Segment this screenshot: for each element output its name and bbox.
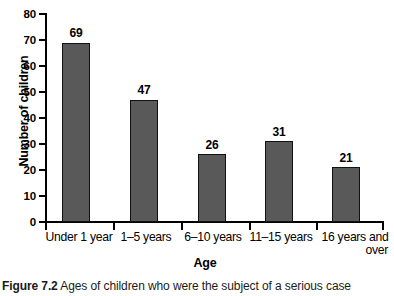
x-category-label-6-10-years: 6–10 years (178, 231, 248, 244)
figure-caption: Figure 7.2 Ages of children who were the… (2, 279, 394, 293)
x-tick-mark-0 (45, 223, 47, 230)
figure-caption-label: Figure 7.2 (2, 279, 58, 293)
y-axis-line (45, 13, 47, 223)
x-category-label-line-1: 16 years and (316, 231, 394, 244)
y-tick-label-10: 10 (8, 191, 36, 203)
figure-bar-chart: 80 70 60 50 40 30 20 10 0 69 47 26 31 21… (0, 0, 394, 296)
x-tick-mark-4 (316, 223, 318, 230)
y-axis-title: Number of children (17, 31, 31, 191)
x-tick-mark-3 (249, 223, 251, 230)
bar-value-11-15-years: 31 (259, 126, 299, 138)
figure-caption-text: Ages of children who were the subject of… (60, 279, 351, 293)
bar-1-5-years[interactable] (130, 100, 158, 222)
bar-value-under-1-year: 69 (56, 27, 96, 39)
x-axis-title: Age (165, 256, 245, 270)
x-category-label-under-1-year: Under 1 year (42, 231, 116, 244)
x-tick-mark-5 (382, 223, 384, 230)
bar-6-10-years[interactable] (198, 154, 226, 222)
x-tick-mark-2 (181, 223, 183, 230)
x-tick-mark-1 (113, 223, 115, 230)
bar-under-1-year[interactable] (62, 43, 90, 222)
bar-value-16-years-and-over: 21 (326, 152, 366, 164)
x-category-label-line-2: over (316, 244, 394, 257)
x-category-label-1-5-years: 1–5 years (112, 231, 180, 244)
bar-11-15-years[interactable] (265, 141, 293, 222)
bar-16-years-and-over[interactable] (332, 167, 360, 222)
x-category-label-11-15-years: 11–15 years (243, 231, 319, 244)
x-category-label-16-years-and-over: 16 years and over (316, 231, 394, 256)
bar-value-6-10-years: 26 (192, 139, 232, 151)
y-tick-label-80: 80 (8, 9, 36, 21)
bar-value-1-5-years: 47 (124, 84, 164, 96)
y-tick-label-0: 0 (8, 217, 36, 229)
